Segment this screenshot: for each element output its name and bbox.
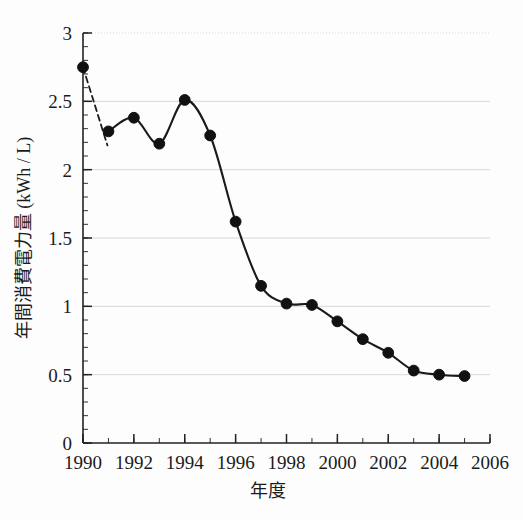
data-point: 2004: 0.5 <box>434 369 445 380</box>
line-chart: 1990: 2.751991: 2.281992: 2.381993: 2.19… <box>0 0 523 520</box>
y-axis-title: 年間消費電力量 (kWh / L) <box>14 137 35 339</box>
x-major-ticks-group <box>83 434 490 443</box>
data-point: 2000: 0.89 <box>332 316 343 327</box>
data-point: 2005: 0.49 <box>459 371 470 382</box>
data-point: 1996: 1.62 <box>230 216 241 227</box>
x-tick-label: 1990 <box>64 452 102 473</box>
y-tick-label: 3 <box>63 23 73 44</box>
y-tick-label: 1.5 <box>48 228 72 249</box>
y-tick-label: 0.5 <box>48 365 72 386</box>
data-point: 1999: 1.01 <box>307 300 318 311</box>
x-tick-label: 2002 <box>369 452 407 473</box>
x-tick-label: 1994 <box>166 452 205 473</box>
data-point: 1993: 2.19 <box>154 138 165 149</box>
data-point: 1995: 2.25 <box>205 130 216 141</box>
x-tick-labels-group: 199019921994199619982000200220042006 <box>64 452 509 473</box>
x-axis-title: 年度 <box>250 481 286 501</box>
data-point: 1992: 2.38 <box>128 112 139 123</box>
data-point: 1994: 2.51 <box>179 95 190 106</box>
y-tick-label: 1 <box>63 296 73 317</box>
data-point: 2002: 0.66 <box>383 347 394 358</box>
y-tick-labels-group: 00.511.522.53 <box>48 23 72 454</box>
x-tick-label: 2000 <box>318 452 356 473</box>
y-tick-label: 0 <box>63 433 73 454</box>
y-tick-label: 2 <box>63 160 73 181</box>
x-tick-label: 1996 <box>217 452 255 473</box>
data-point: 2003: 0.53 <box>408 365 419 376</box>
x-tick-label: 2006 <box>471 452 509 473</box>
x-tick-label: 1992 <box>115 452 153 473</box>
data-point: 1998: 1.02 <box>281 298 292 309</box>
y-major-ticks-group <box>83 33 92 443</box>
x-tick-label: 1998 <box>268 452 306 473</box>
x-tick-label: 2004 <box>420 452 459 473</box>
data-point: 1990: 2.75 <box>78 62 89 73</box>
data-point: 1991: 2.28 <box>103 126 114 137</box>
y-tick-label: 2.5 <box>48 91 72 112</box>
data-point: 1997: 1.15 <box>256 280 267 291</box>
data-point: 2001: 0.76 <box>357 334 368 345</box>
series-markers-group: 1990: 2.751991: 2.281992: 2.381993: 2.19… <box>78 62 470 382</box>
gridlines-group <box>83 33 490 375</box>
chart-container: 1990: 2.751991: 2.281992: 2.381993: 2.19… <box>0 0 523 520</box>
